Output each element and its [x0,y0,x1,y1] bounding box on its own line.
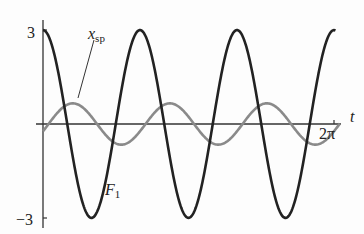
xsp-label: xsp [87,25,105,44]
x-axis-label: t [350,108,355,125]
x-tick-label-2pi: 2π [319,125,335,142]
y-tick-label-3: 3 [27,24,35,41]
y-tick-label-neg3: −3 [16,211,33,228]
f1-label: F1 [104,181,120,200]
plot: 3 −3 t 2π xsp F1 [0,0,364,234]
xsp-leader [78,40,94,98]
